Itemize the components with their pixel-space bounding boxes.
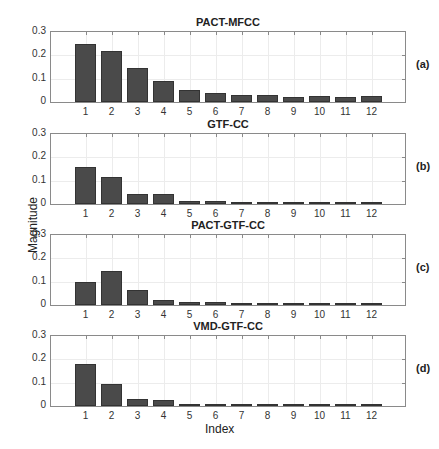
y-tick-label: 0.3 <box>20 127 46 138</box>
bar <box>205 201 226 204</box>
bar <box>335 202 356 204</box>
y-axis-label: Magnitude <box>26 195 40 255</box>
gridline-v <box>190 235 191 305</box>
bar <box>153 81 174 102</box>
subplot-a: PACT-MFCC (a) 00.10.20.3123456789101112 <box>50 31 406 102</box>
bar <box>361 96 382 102</box>
bar <box>205 93 226 102</box>
gridline-v <box>320 134 321 204</box>
gridline-v <box>294 235 295 305</box>
x-tick-label: 4 <box>154 208 174 219</box>
gridline-v <box>190 336 191 406</box>
tick-mark <box>216 32 217 35</box>
x-tick-label: 9 <box>284 410 304 421</box>
x-tick-label: 6 <box>206 410 226 421</box>
tick-mark <box>138 336 139 339</box>
x-tick-label: 8 <box>258 208 278 219</box>
y-tick-label: 0.3 <box>20 329 46 340</box>
gridline-v <box>216 32 217 102</box>
bar <box>231 303 252 305</box>
gridline-v <box>216 235 217 305</box>
x-tick-label: 12 <box>362 208 382 219</box>
x-tick-label: 8 <box>258 106 278 117</box>
tick-mark <box>112 336 113 339</box>
bar <box>101 384 122 406</box>
bar <box>257 303 278 305</box>
x-tick-label: 8 <box>258 410 278 421</box>
gridline-h <box>51 258 405 259</box>
tick-mark <box>320 235 321 238</box>
tick-mark <box>372 336 373 339</box>
gridline-v <box>346 235 347 305</box>
bar <box>205 302 226 305</box>
subplot-title: PACT-GTF-CC <box>50 219 406 231</box>
x-tick-label: 9 <box>284 309 304 320</box>
y-tick-label: 0.2 <box>20 150 46 161</box>
bar <box>335 303 356 305</box>
bar <box>153 400 174 406</box>
x-tick-label: 3 <box>128 309 148 320</box>
tick-mark <box>242 235 243 238</box>
plot-area <box>50 31 406 103</box>
tick-mark <box>242 336 243 339</box>
bar <box>179 404 200 406</box>
y-tick-label: 0 <box>20 298 46 309</box>
tick-mark <box>402 55 405 56</box>
x-tick-label: 1 <box>76 106 96 117</box>
x-tick-label: 3 <box>128 410 148 421</box>
x-tick-label: 1 <box>76 208 96 219</box>
panel-label: (b) <box>416 160 430 172</box>
tick-mark <box>190 235 191 238</box>
tick-mark <box>346 336 347 339</box>
tick-mark <box>268 235 269 238</box>
tick-mark <box>372 32 373 35</box>
tick-mark <box>268 134 269 137</box>
gridline-v <box>294 32 295 102</box>
x-tick-label: 4 <box>154 106 174 117</box>
y-tick-label: 0.2 <box>20 352 46 363</box>
x-tick-label: 8 <box>258 309 278 320</box>
bar <box>127 399 148 406</box>
tick-mark <box>112 134 113 137</box>
bar <box>179 90 200 102</box>
panel-label: (d) <box>416 362 430 374</box>
bar <box>257 95 278 102</box>
tick-mark <box>164 336 165 339</box>
bar <box>101 177 122 204</box>
tick-mark <box>86 235 87 238</box>
panel-label: (c) <box>416 261 429 273</box>
x-tick-label: 5 <box>180 208 200 219</box>
x-tick-label: 10 <box>310 309 330 320</box>
bar <box>231 404 252 406</box>
tick-mark <box>294 336 295 339</box>
tick-mark <box>216 336 217 339</box>
x-tick-label: 3 <box>128 106 148 117</box>
gridline-v <box>346 134 347 204</box>
subplot-title: GTF-CC <box>50 118 406 130</box>
x-tick-label: 5 <box>180 410 200 421</box>
bar <box>127 290 148 305</box>
bar <box>257 202 278 204</box>
gridline-v <box>242 134 243 204</box>
x-tick-label: 2 <box>102 309 122 320</box>
tick-mark <box>164 32 165 35</box>
gridline-v <box>294 134 295 204</box>
tick-mark <box>402 181 405 182</box>
tick-mark <box>402 282 405 283</box>
gridline-v <box>268 336 269 406</box>
gridline-v <box>346 336 347 406</box>
gridline-v <box>242 235 243 305</box>
plot-area <box>50 335 406 407</box>
gridline-v <box>294 336 295 406</box>
y-tick-label: 0.3 <box>20 25 46 36</box>
x-tick-label: 11 <box>336 208 356 219</box>
bar <box>205 404 226 406</box>
y-tick-label: 0 <box>20 399 46 410</box>
tick-mark <box>402 359 405 360</box>
x-axis-label: Index <box>205 422 234 436</box>
bar <box>101 51 122 102</box>
bar <box>231 202 252 204</box>
y-tick-label: 0.1 <box>20 376 46 387</box>
gridline-v <box>320 336 321 406</box>
tick-mark <box>402 383 405 384</box>
